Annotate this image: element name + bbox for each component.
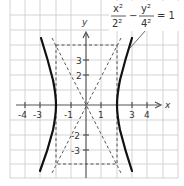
x-axis-label: x (164, 100, 171, 110)
equation-y-numerator: y² (141, 3, 151, 14)
x-tick-label: -4 (18, 110, 27, 120)
y-tick-label: -3 (71, 146, 80, 156)
x-tick-label: -3 (33, 110, 42, 120)
x-tick-label: 3 (129, 110, 135, 120)
x-tick-label: 4 (144, 110, 150, 120)
equation-equals-one: = 1 (157, 10, 175, 21)
y-tick-label: -2 (71, 131, 80, 141)
equation-minus: − (129, 10, 137, 21)
equation-x-denominator: 2² (112, 18, 122, 29)
x-tick-label: 1 (98, 110, 104, 120)
equation-annotation: x² 2² − y² 4² = 1 (109, 1, 179, 31)
hyperbola-graph: x y -4 -3 -1 1 3 4 3 2 -2 -3 x² 2² − y² … (0, 0, 184, 186)
equation-x-numerator: x² (113, 3, 123, 14)
y-tick-label: 3 (76, 56, 82, 66)
equation-y-denominator: 4² (141, 18, 151, 29)
x-tick-label: -1 (64, 110, 73, 120)
x-axis (16, 102, 161, 108)
y-axis-label: y (81, 17, 88, 27)
y-tick-label: 2 (76, 71, 82, 81)
